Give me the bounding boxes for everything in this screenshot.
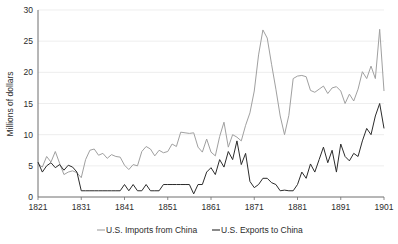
x-tick-label: 1841: [115, 202, 134, 212]
x-tick-label: 1831: [72, 202, 91, 212]
y-tick-label: 0: [28, 192, 33, 202]
x-axis-tick-labels: 182118311841185118611871188118911901: [29, 202, 394, 212]
legend-label: U.S. Imports from China: [106, 225, 197, 235]
chart-legend: U.S. Imports from ChinaU.S. Exports to C…: [97, 225, 303, 235]
y-tick-label: 10: [24, 130, 34, 140]
legend-label: U.S. Exports to China: [221, 225, 303, 235]
y-tick-label: 20: [24, 67, 34, 77]
chart-container: 051015202530 182118311841185118611871188…: [0, 0, 398, 244]
y-axis-tick-labels: 051015202530: [24, 5, 34, 202]
x-tick-label: 1901: [375, 202, 394, 212]
series-line-exports: [38, 104, 384, 194]
x-tick-label: 1871: [245, 202, 264, 212]
y-tick-label: 30: [24, 5, 34, 15]
y-tick-label: 25: [24, 36, 34, 46]
x-tick-label: 1891: [331, 202, 350, 212]
x-tick-label: 1861: [202, 202, 221, 212]
x-tick-label: 1851: [158, 202, 177, 212]
x-tick-label: 1821: [29, 202, 48, 212]
y-tick-label: 15: [24, 99, 34, 109]
y-tick-label: 5: [28, 161, 33, 171]
line-chart: 051015202530 182118311841185118611871188…: [0, 0, 398, 244]
x-tick-label: 1881: [288, 202, 307, 212]
y-axis-title: Millions of dollars: [5, 71, 15, 136]
